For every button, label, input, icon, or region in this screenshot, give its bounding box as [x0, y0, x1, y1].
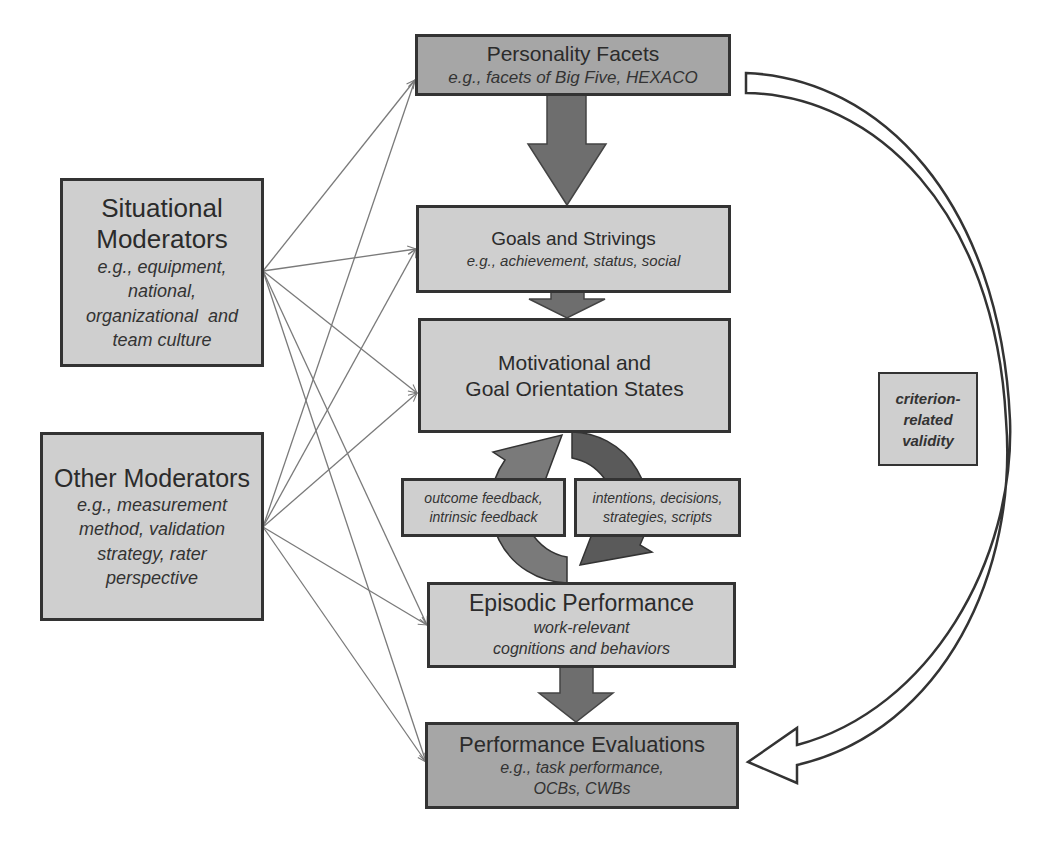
other-moderators-example: perspective	[106, 566, 198, 590]
connector-situational-to-episodic	[263, 271, 427, 625]
connector-other-to-evaluations	[263, 527, 426, 762]
connector-other-to-goals	[263, 249, 416, 527]
flow-arrow-goals-to-motivational	[529, 292, 605, 318]
connector-other-to-episodic	[263, 527, 427, 625]
situational-example: team culture	[112, 328, 211, 352]
personality-facets-subtitle: e.g., facets of Big Five, HEXACO	[448, 67, 697, 89]
intentions-line2: strategies, scripts	[603, 508, 712, 527]
personality-facets-title: Personality Facets	[487, 41, 660, 66]
personality-facets-box: Personality Facets e.g., facets of Big F…	[415, 34, 731, 96]
motivational-states-box: Motivational and Goal Orientation States	[418, 318, 731, 433]
situational-moderators-box: Situational Moderators e.g., equipment, …	[60, 178, 264, 367]
other-moderators-box: Other Moderators e.g., measurement metho…	[40, 432, 264, 621]
feedback-line2: intrinsic feedback	[429, 508, 537, 527]
goals-strivings-title: Goals and Strivings	[491, 228, 656, 251]
flow-arrow-personality-to-goals	[528, 95, 606, 205]
goals-strivings-box: Goals and Strivings e.g., achievement, s…	[416, 205, 731, 293]
other-moderators-example: e.g., measurement	[77, 493, 227, 517]
situational-example: national,	[128, 279, 196, 303]
connector-situational-to-personality	[263, 80, 415, 271]
performance-evaluations-line2: OCBs, CWBs	[534, 779, 631, 800]
motivational-states-line2: Goal Orientation States	[465, 376, 683, 401]
criterion-validity-line2: related	[903, 409, 952, 430]
situational-moderators-title-line1: Situational	[101, 193, 222, 224]
other-moderators-example: method, validation	[79, 517, 225, 541]
criterion-validity-box: criterion- related validity	[878, 372, 978, 466]
criterion-validity-line3: validity	[902, 430, 954, 451]
moderator-connectors	[263, 80, 427, 762]
intentions-line1: intentions, decisions,	[593, 489, 723, 508]
situational-moderators-title-line2: Moderators	[96, 224, 228, 255]
motivational-states-line1: Motivational and	[498, 350, 651, 375]
episodic-performance-line2: cognitions and behaviors	[493, 639, 670, 660]
performance-evaluations-title: Performance Evaluations	[459, 732, 705, 758]
goals-strivings-subtitle: e.g., achievement, status, social	[467, 251, 680, 271]
performance-evaluations-line1: e.g., task performance,	[500, 758, 664, 779]
flow-arrow-episodic-to-evaluations	[539, 667, 613, 722]
criterion-validity-line1: criterion-	[895, 388, 960, 409]
episodic-performance-box: Episodic Performance work-relevant cogni…	[427, 582, 736, 668]
situational-example: e.g., equipment,	[97, 255, 226, 279]
feedback-line1: outcome feedback,	[424, 489, 542, 508]
connector-situational-to-goals	[263, 249, 416, 271]
other-moderators-example: strategy, rater	[97, 542, 207, 566]
episodic-performance-line1: work-relevant	[533, 618, 629, 639]
performance-evaluations-box: Performance Evaluations e.g., task perfo…	[425, 722, 739, 809]
feedback-box: outcome feedback, intrinsic feedback	[401, 478, 566, 537]
other-moderators-title: Other Moderators	[54, 463, 250, 493]
situational-example: organizational and	[86, 304, 238, 328]
connector-other-to-personality	[263, 80, 415, 527]
episodic-performance-title: Episodic Performance	[469, 590, 694, 618]
intentions-box: intentions, decisions, strategies, scrip…	[574, 478, 741, 537]
